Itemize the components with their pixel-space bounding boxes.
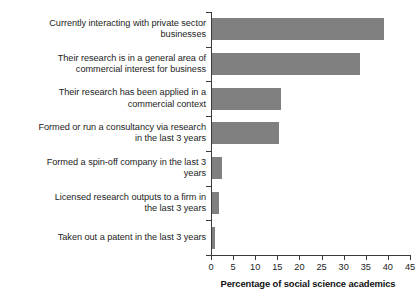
bar [211, 192, 219, 214]
y-axis-tick [206, 47, 211, 48]
y-axis-tick [206, 81, 211, 82]
category-label: Licensed research outputs to a firm in t… [10, 192, 206, 215]
category-label: Their research has been applied in a com… [10, 87, 206, 110]
y-axis-line [211, 12, 212, 255]
plot-area: Currently interacting with private secto… [0, 0, 416, 297]
x-axis-tick [299, 255, 300, 260]
chart-row: Formed or run a consultancy via research… [0, 116, 416, 151]
bar [211, 157, 222, 179]
x-axis-tick [211, 255, 212, 260]
x-axis-title: Percentage of social science academics [200, 278, 416, 289]
y-axis-tick [206, 151, 211, 152]
category-label: Currently interacting with private secto… [10, 18, 206, 41]
x-axis-tick [255, 255, 256, 260]
y-axis-tick [206, 186, 211, 187]
bar-track [211, 186, 219, 221]
x-axis-tick [344, 255, 345, 260]
chart-row: Taken out a patent in the last 3 years [0, 220, 416, 255]
bar-track [211, 12, 384, 47]
x-axis-tick [233, 255, 234, 260]
bar-track [211, 47, 360, 82]
bar-track [211, 116, 279, 151]
x-axis-tick [388, 255, 389, 260]
x-axis-line [211, 255, 410, 256]
category-label: Taken out a patent in the last 3 years [10, 232, 206, 243]
chart-row: Currently interacting with private secto… [0, 12, 416, 47]
chart-row: Licensed research outputs to a firm in t… [0, 186, 416, 221]
x-axis-tick [277, 255, 278, 260]
bar-track [211, 81, 281, 116]
x-axis-tick [366, 255, 367, 260]
category-label: Formed a spin-off company in the last 3 … [10, 157, 206, 180]
bar [211, 18, 384, 40]
category-label: Their research is in a general area of c… [10, 53, 206, 76]
chart-row: Formed a spin-off company in the last 3 … [0, 151, 416, 186]
x-axis-tick [322, 255, 323, 260]
bar [211, 88, 281, 110]
category-label: Formed or run a consultancy via research… [10, 122, 206, 145]
y-axis-tick [206, 116, 211, 117]
bar [211, 122, 279, 144]
x-axis-tick [410, 255, 411, 260]
y-axis-tick [206, 220, 211, 221]
chart-row: Their research is in a general area of c… [0, 47, 416, 82]
bar-chart: Currently interacting with private secto… [0, 0, 416, 297]
bar [211, 53, 360, 75]
y-axis-tick [206, 12, 211, 13]
x-axis-tick-label: 45 [395, 262, 416, 272]
bar-track [211, 151, 222, 186]
chart-row: Their research has been applied in a com… [0, 81, 416, 116]
